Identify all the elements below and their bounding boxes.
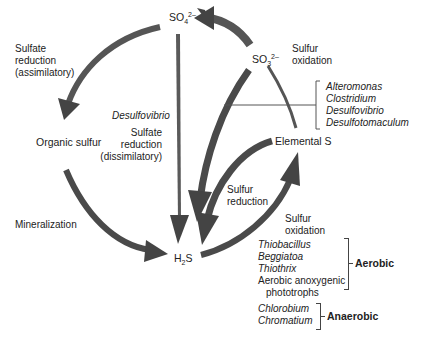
arrow-mineralization (66, 170, 168, 262)
reducers-bracket (316, 81, 320, 129)
aerobic-bracket (344, 238, 349, 290)
sulfur-reducers-list: Alteromonas Clostridium Desulfovibrio De… (326, 81, 409, 129)
node-elemental-sulfur: Elemental S (275, 135, 332, 147)
label-desulfovibrio: Desulfovibrio (112, 110, 170, 122)
node-sulfate: SO42– (169, 11, 196, 23)
aerobic-bracket-tick (349, 263, 353, 264)
arrow-sulfite-elemental (268, 66, 296, 128)
label-sulfate-reduction-dissimilatory: Sulfate reduction (dissimilatory) (100, 127, 162, 163)
aerobic-organisms-list: Thiobacillus Beggiatoa Thiothrix Aerobic… (258, 239, 345, 299)
anaerobic-organisms-list: Chlorobium Chromatium (258, 303, 312, 327)
node-organic-sulfur: Organic sulfur (36, 136, 101, 148)
anaerobic-label: Anaerobic (327, 310, 378, 322)
anaerobic-bracket-tick (321, 316, 325, 317)
node-hydrogen-sulfide: H2S (174, 252, 193, 264)
aerobic-label: Aerobic (355, 257, 394, 269)
label-sulfate-reduction-assimilatory: Sulfate reduction (assimilatory) (15, 43, 74, 79)
node-sulfite: SO32– (252, 53, 279, 65)
label-mineralization: Mineralization (15, 219, 77, 231)
label-sulfur-oxidation-bottom: Sulfur oxidation (285, 213, 325, 237)
label-sulfur-reduction: Sulfur reduction (227, 184, 268, 208)
arrow-sulfite-to-sulfate (194, 6, 250, 45)
label-sulfur-oxidation-top: Sulfur oxidation (292, 43, 332, 67)
arrow-dissimilatory (170, 34, 189, 244)
